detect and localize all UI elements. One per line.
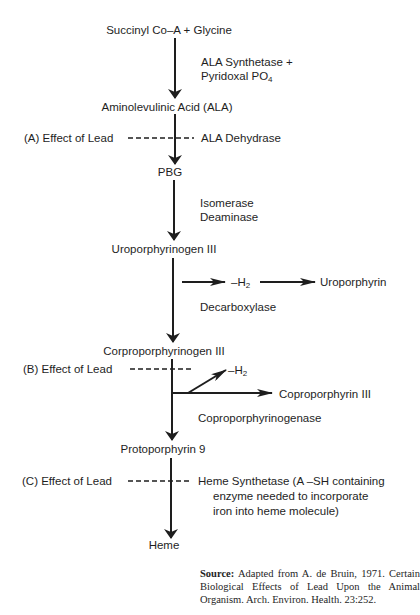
enzyme-heme-synthetase-line3: iron into heme molecule) — [213, 504, 339, 518]
lead-effect-a: (A) Effect of Lead — [24, 131, 113, 145]
node-pbg: PBG — [158, 165, 182, 179]
enzyme-decarboxylase: Decarboxylase — [200, 300, 276, 314]
enzyme-deaminase: Deaminase — [200, 210, 258, 224]
node-ala: Aminolevulinic Acid (ALA) — [101, 100, 232, 114]
lead-effect-c: (C) Effect of Lead — [22, 474, 112, 488]
byproduct-h2-uro: –H2 — [231, 275, 250, 289]
byproduct-h2-copro: –H2 — [228, 363, 247, 377]
enzyme-isomerase: Isomerase — [200, 196, 254, 210]
arrow-to-h2-copro — [188, 370, 226, 393]
enzyme-ala-dehydrase: ALA Dehydrase — [201, 131, 281, 145]
node-uroporphyrin: Uroporphyrin — [320, 275, 386, 289]
node-corproporphyrinogen-iii: Corproporphyrinogen III — [103, 344, 224, 358]
enzyme-ala-synthetase: ALA Synthetase + — [201, 55, 293, 69]
lead-effect-b: (B) Effect of Lead — [23, 362, 112, 376]
node-coproporphyrin-iii: Coproporphyrin III — [279, 387, 371, 401]
source-citation: Source: Adapted from A. de Bruin, 1971. … — [200, 567, 420, 606]
node-heme: Heme — [149, 538, 180, 552]
node-succinyl-glycine: Succinyl Co–A + Glycine — [106, 23, 232, 37]
enzyme-heme-synthetase: Heme Synthetase (A –SH containing — [198, 474, 385, 488]
enzyme-heme-synthetase-line2: enzyme needed to incorporate — [213, 489, 368, 503]
node-uroporphyrinogen-iii: Uroporphyrinogen III — [112, 242, 217, 256]
enzyme-coproporphyrinogenase: Coproporphyrinogenase — [198, 411, 321, 425]
node-protoporphyrin-9: Protoporphyrin 9 — [120, 442, 205, 456]
enzyme-pyridoxal-po4: Pyridoxal PO4 — [201, 69, 273, 83]
